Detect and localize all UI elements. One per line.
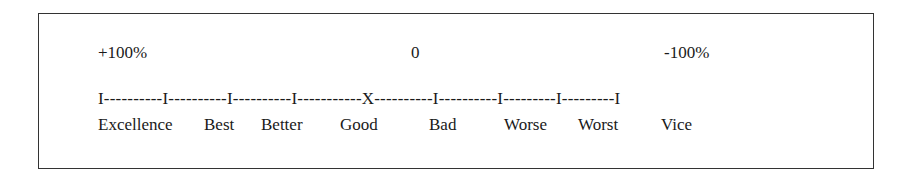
category-best: Best (204, 115, 234, 135)
category-good: Good (340, 115, 378, 135)
category-bad: Bad (429, 115, 456, 135)
category-worst: Worst (578, 115, 618, 135)
scale-line: I----------I----------I----------I------… (98, 89, 620, 109)
label-plus-100: +100% (98, 43, 147, 63)
label-minus-100: -100% (664, 43, 709, 63)
label-zero: 0 (411, 43, 420, 63)
category-worse: Worse (504, 115, 547, 135)
category-excellence: Excellence (98, 115, 173, 135)
category-better: Better (261, 115, 303, 135)
category-vice: Vice (661, 115, 692, 135)
